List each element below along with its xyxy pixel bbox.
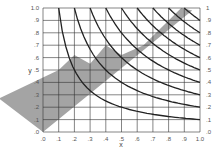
x-tick-label: 1.0 [196,136,205,142]
y-tick-label-right: .9 [206,17,212,23]
y-tick-label-right: .0 [206,129,212,135]
y-tick-label-right: .7 [206,42,212,48]
y-tick-label-left: .5 [34,67,40,73]
chart: .0.1.2.3.4.5.6.7.8.91.0 .0.1.2.3.4.5.6.7… [0,0,221,152]
y-tick-label-left: .3 [34,92,40,98]
grid [43,8,200,132]
y-axis-label: y [28,67,32,75]
x-tick-label: .7 [150,136,156,142]
y-tick-label-left: .7 [34,42,40,48]
y-tick-label-right: .1 [206,117,212,123]
x-tick-label: .0 [40,136,46,142]
x-tick-label: .9 [182,136,188,142]
y-tick-label-left: .2 [34,104,40,110]
y-tick-label-right: .4 [206,79,212,85]
x-tick-label: .4 [103,136,109,142]
y-tick-label-left: .4 [34,79,40,85]
x-tick-label: .2 [72,136,78,142]
y-tick-label-right: 1 [206,5,210,11]
y-tick-label-left: .1 [34,117,40,123]
y-tick-label-right: .5 [206,67,212,73]
y-tick-label-left: 1.0 [31,5,40,11]
y-axis-ticks-right: .0.1.2.3.4.5.6.7.8.91 [206,5,212,135]
y-tick-label-left: .9 [34,17,40,23]
x-tick-label: .6 [135,136,141,142]
indifference-curve [122,8,201,70]
y-tick-label-left: .8 [34,30,40,36]
y-tick-label-right: .6 [206,55,212,61]
x-tick-label: .1 [56,136,62,142]
y-tick-label-right: .2 [206,104,212,110]
y-tick-label-right: .8 [206,30,212,36]
y-tick-label-right: .3 [206,92,212,98]
x-axis-label: x [119,141,123,148]
x-tick-label: .3 [88,136,94,142]
y-tick-label-left: .0 [34,129,40,135]
x-tick-label: .8 [166,136,172,142]
y-tick-label-left: .6 [34,55,40,61]
